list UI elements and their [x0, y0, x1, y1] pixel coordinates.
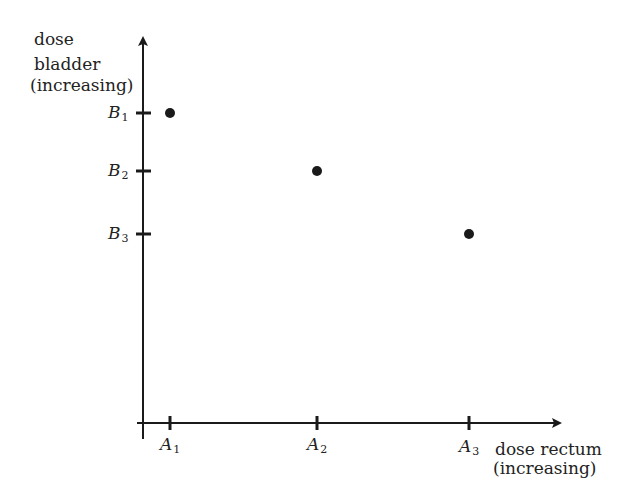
y-axis-label-line-3: (increasing)	[30, 76, 134, 94]
x-tick-label-a2: A2	[307, 434, 327, 456]
y-tick-label-b1: B1	[108, 102, 129, 124]
x-tick-label-a3: A3	[459, 436, 479, 458]
y-tick-label-b3: B3	[108, 223, 129, 245]
data-point-a1-b1	[165, 108, 175, 118]
data-point-a2-b2	[312, 166, 322, 176]
y-axis-label-line-2: bladder	[34, 55, 100, 73]
x-axis-label-line-2: (increasing)	[493, 459, 597, 477]
x-tick-label-a1: A1	[160, 434, 180, 456]
data-point-a3-b3	[464, 229, 474, 239]
y-axis-label-line-1: dose	[34, 30, 74, 48]
x-axis-label-line-1: dose rectum	[495, 440, 602, 458]
y-tick-label-b2: B2	[108, 160, 129, 182]
